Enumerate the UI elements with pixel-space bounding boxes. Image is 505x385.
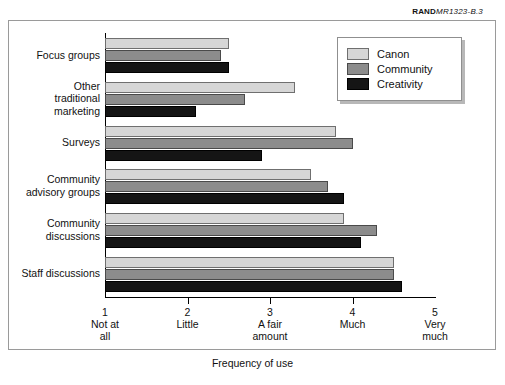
y-axis-category-labels: Focus groupsOthertraditionalmarketingSur… xyxy=(0,33,100,295)
bar-community xyxy=(105,50,221,61)
y-axis-label: Othertraditionalmarketing xyxy=(4,80,100,118)
bar-group xyxy=(105,257,435,292)
y-axis-label: Staff discussions xyxy=(4,267,100,280)
bar-community xyxy=(105,181,328,192)
bar-creativity xyxy=(105,106,196,117)
x-tick-label: 1Not atall xyxy=(70,306,140,342)
legend-item-community: Community xyxy=(347,63,452,75)
x-tick-label: 3A fairamount xyxy=(235,306,305,342)
bar-creativity xyxy=(105,281,402,292)
x-axis-title: Frequency of use xyxy=(0,357,505,369)
y-axis-label: Communitydiscussions xyxy=(4,217,100,242)
figure: RANDMR1323-B.3 Focus groupsOthertraditio… xyxy=(0,0,505,385)
y-axis-label: Communityadvisory groups xyxy=(4,173,100,198)
x-tick-label: 4Much xyxy=(318,306,388,330)
bar-creativity xyxy=(105,237,361,248)
x-axis-tick-labels: 1Not atall2Little3A fairamount4Much5Very… xyxy=(0,306,505,350)
bar-canon xyxy=(105,257,394,268)
bar-group xyxy=(105,213,435,248)
y-axis-label: Focus groups xyxy=(4,49,100,62)
legend-label-canon: Canon xyxy=(377,48,409,60)
bar-community xyxy=(105,225,377,236)
legend-label-community: Community xyxy=(377,63,433,75)
bar-community xyxy=(105,269,394,280)
legend-item-canon: Canon xyxy=(347,48,452,60)
legend-swatch-creativity xyxy=(347,78,369,90)
bar-community xyxy=(105,94,245,105)
y-axis-label: Surveys xyxy=(4,136,100,149)
bar-canon xyxy=(105,38,229,49)
legend-swatch-community xyxy=(347,63,369,75)
bar-canon xyxy=(105,213,344,224)
x-tick xyxy=(353,297,354,304)
bar-group xyxy=(105,126,435,161)
bar-creativity xyxy=(105,62,229,73)
x-tick-label: 5Verymuch xyxy=(400,306,470,342)
bar-canon xyxy=(105,126,336,137)
credit-brand: RAND xyxy=(412,7,436,16)
legend-label-creativity: Creativity xyxy=(377,78,423,90)
bar-canon xyxy=(105,169,311,180)
credit-number: MR1323-B.3 xyxy=(436,7,483,16)
bar-creativity xyxy=(105,193,344,204)
bar-creativity xyxy=(105,150,262,161)
legend-item-creativity: Creativity xyxy=(347,78,452,90)
x-tick-label: 2Little xyxy=(153,306,223,330)
source-credit: RANDMR1323-B.3 xyxy=(412,7,483,16)
bar-canon xyxy=(105,82,295,93)
bar-community xyxy=(105,138,353,149)
bar-group xyxy=(105,169,435,204)
x-tick xyxy=(270,297,271,304)
legend: Canon Community Creativity xyxy=(337,37,462,101)
x-tick xyxy=(188,297,189,304)
legend-swatch-canon xyxy=(347,48,369,60)
